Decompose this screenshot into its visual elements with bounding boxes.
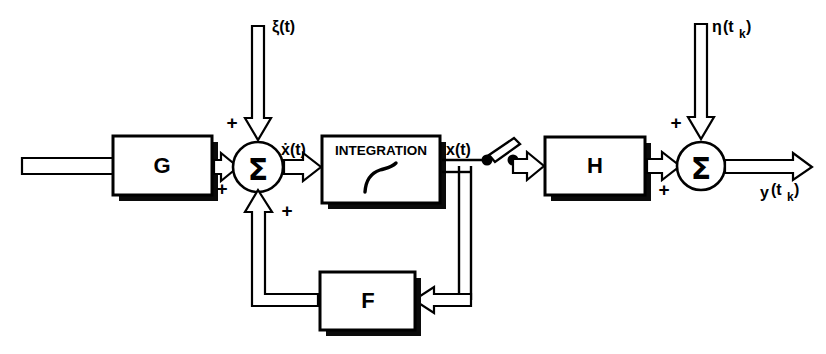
sum-right-sigma: Σ (691, 151, 712, 186)
output-y-label: y (t k ) (760, 181, 799, 204)
plus-sign-feedback: + (281, 200, 292, 221)
summing-junction-left: Σ (233, 142, 283, 192)
block-F-label: F (361, 288, 374, 313)
noise-eta-subscript: k (739, 27, 746, 41)
block-INTEGRATION-label: INTEGRATION (335, 143, 427, 158)
block-diagram-canvas: G ξ(t) Σ + + + ẋ(t) INTEGRATION (0, 0, 826, 354)
feedback-x-to-f (414, 287, 471, 313)
output-y-symbol: y (760, 184, 769, 201)
noise-eta-symbol: η (712, 18, 722, 35)
noise-eta-close-paren: ) (746, 18, 751, 35)
state-x-line (442, 160, 487, 300)
summing-junction-right: Σ (677, 142, 725, 190)
block-G-label: G (153, 153, 170, 178)
noise-xi-arrow (245, 26, 271, 140)
block-diagram-svg: G ξ(t) Σ + + + ẋ(t) INTEGRATION (0, 0, 826, 354)
plus-sign-eta: + (670, 112, 681, 133)
sum-left-sigma: Σ (248, 152, 269, 187)
h-to-sum-arrow (647, 152, 680, 180)
noise-eta-label: η (t k ) (712, 18, 751, 41)
noise-xi-label: ξ(t) (272, 18, 295, 36)
output-y-subscript: k (787, 190, 794, 204)
noise-eta-arg: (t (723, 18, 734, 35)
state-x-label: x(t) (446, 141, 471, 158)
plus-sign-u: + (216, 178, 227, 199)
block-F: F (320, 272, 421, 336)
output-y-arrow (725, 153, 812, 180)
switch-to-h-arrow (513, 152, 544, 180)
block-G: G (113, 136, 218, 201)
plus-sign-h: + (658, 179, 669, 200)
block-INTEGRATION: INTEGRATION (322, 136, 446, 209)
output-y-arg: (t (771, 181, 782, 198)
plus-sign-xi: + (226, 112, 237, 133)
block-H-label: H (587, 153, 603, 178)
noise-eta-arrow (688, 24, 714, 139)
output-y-close-paren: ) (794, 181, 799, 198)
block-H: H (545, 137, 651, 201)
state-derivative-label: ẋ(t) (281, 141, 306, 158)
